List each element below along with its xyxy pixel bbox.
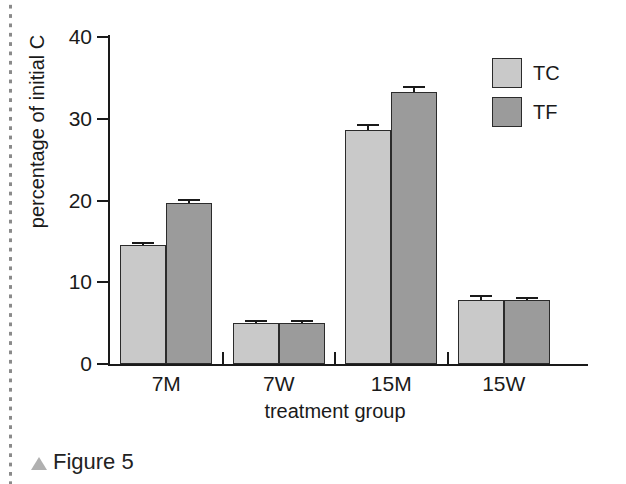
legend-item-tc: TC (492, 58, 612, 88)
y-axis-tick (97, 281, 108, 283)
error-bar-cap (470, 295, 492, 297)
y-axis-tick-label-text: 10 (46, 271, 92, 292)
legend-swatch-tc (492, 58, 522, 88)
error-bar-cap (291, 320, 313, 322)
y-axis-tick-label-text: 30 (46, 108, 92, 129)
x-axis-label-15W: 15W (449, 372, 559, 396)
error-bar-cap (132, 242, 154, 244)
figure-container: 010203040 7M7W15M15W treatment group per… (0, 0, 626, 484)
bar-7W-TC (233, 323, 279, 364)
y-axis-tick-label-text: 20 (46, 190, 92, 211)
y-axis-tick-label: 10 (42, 271, 92, 292)
y-axis-tick-label: 30 (42, 108, 92, 129)
x-axis-line (108, 364, 588, 366)
y-axis-tick-label: 0 (42, 353, 92, 374)
legend-swatch-tf (492, 97, 522, 127)
bar-7W-TF (279, 323, 325, 364)
y-axis-tick (97, 363, 108, 365)
legend-label-tf: TF (533, 101, 557, 124)
legend-item-tf: TF (492, 97, 612, 127)
y-axis-title: percentage of initial C (26, 0, 49, 277)
figure-caption-text: Figure 5 (53, 449, 134, 475)
bar-15M-TC (345, 130, 391, 364)
bar-15M-TF (391, 92, 437, 364)
error-bar-cap (357, 124, 379, 126)
y-axis-tick-label-text: 0 (46, 353, 92, 374)
y-axis-tick-label-text: 40 (46, 26, 92, 47)
chart-legend: TC TF (492, 58, 612, 136)
error-bar-cap (403, 86, 425, 88)
error-bar-cap (516, 297, 538, 299)
error-bar-cap (245, 320, 267, 322)
bar-7M-TF (166, 203, 212, 364)
y-axis-tick (97, 36, 108, 38)
x-axis-label-15M: 15M (336, 372, 446, 396)
error-bar-cap (178, 199, 200, 201)
triangle-marker-icon (31, 457, 47, 470)
x-axis-title: treatment group (110, 400, 560, 423)
y-axis-tick (97, 118, 108, 120)
x-axis-label-7M: 7M (111, 372, 221, 396)
y-axis-tick-label: 40 (42, 26, 92, 47)
bar-15W-TC (458, 300, 504, 364)
bar-7M-TC (120, 245, 166, 364)
x-axis-label-7W: 7W (224, 372, 334, 396)
bar-15W-TF (504, 300, 550, 364)
legend-label-tc: TC (533, 62, 560, 85)
y-axis-tick-label: 20 (42, 190, 92, 211)
y-axis-tick (97, 200, 108, 202)
figure-caption: Figure 5 (31, 449, 134, 475)
